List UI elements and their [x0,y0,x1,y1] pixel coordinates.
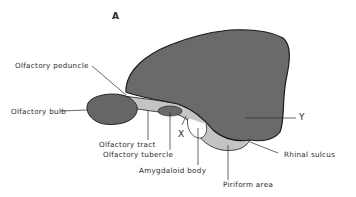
label-rhinal-sulcus: Rhinal sulcus [284,151,335,158]
label-amygdaloid-body: Amygdaloid body [139,167,206,174]
marker-y: Y [299,113,305,122]
label-olfactory-tract: Olfactory tract [99,141,156,148]
olfactory-bulb [87,94,137,125]
cortex [126,30,289,141]
marker-x: X [178,130,184,139]
label-piriform-area: Piriform area [223,181,273,188]
label-olfactory-tubercle: Olfactory tubercle [103,151,173,158]
label-olfactory-bulb: Olfactory bulb [11,108,66,115]
brain-diagram: A Olfactory peduncle Olfactory bulb Olfa… [0,0,356,197]
panel-label: A [112,12,119,21]
label-olfactory-peduncle: Olfactory peduncle [15,62,89,69]
